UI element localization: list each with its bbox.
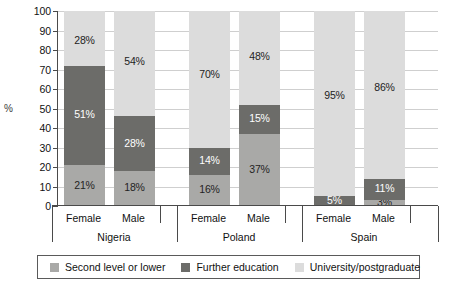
bar-value-label: 16% (189, 183, 230, 195)
y-axis-tick (53, 89, 58, 90)
x-axis-category-separator (410, 206, 411, 223)
x-axis-group-separator (438, 206, 439, 242)
bar-column: 18%28%54% (114, 11, 155, 206)
bar-value-label: 51% (64, 108, 105, 120)
bar-segment-further: 51% (64, 66, 105, 165)
y-axis-title: % (4, 103, 13, 114)
y-axis-tick (53, 31, 58, 32)
bar-segment-univ: 95% (314, 11, 355, 196)
bar-segment-univ: 86% (364, 11, 405, 179)
bar-segment-further: 11% (364, 179, 405, 200)
bar-value-label: 70% (189, 68, 230, 80)
y-axis-label: 40 (23, 122, 51, 134)
bar-column: 3%11%86% (364, 11, 405, 206)
legend-label: Further education (196, 261, 278, 273)
legend-swatch-second-level-icon (50, 263, 59, 272)
y-axis-label: 80 (23, 44, 51, 56)
x-axis-line (52, 205, 438, 206)
x-axis-category-label: Male (238, 212, 279, 224)
bar-value-label: 86% (364, 81, 405, 93)
x-axis-category-label: Female (313, 212, 354, 224)
y-axis-label: 100 (23, 5, 51, 17)
bar-segment-second: 21% (64, 165, 105, 206)
legend-item: University/postgraduate (295, 261, 420, 273)
x-axis-category-separator (160, 206, 161, 223)
bar-segment-further: 28% (114, 116, 155, 171)
x-axis-group-separator (52, 206, 53, 242)
y-axis-tick (53, 109, 58, 110)
y-axis-label: 90 (23, 25, 51, 37)
bar-segment-univ: 54% (114, 11, 155, 116)
plot-area: 21%51%28%18%28%54%16%14%70%37%15%48%5%95… (57, 11, 438, 206)
bar-segment-further: 14% (189, 148, 230, 175)
x-axis-category-separator (285, 206, 286, 223)
bar-value-label: 28% (114, 137, 155, 149)
bar-value-label: 21% (64, 179, 105, 191)
bar-value-label: 14% (189, 154, 230, 166)
bar-value-label: 37% (239, 163, 280, 175)
y-axis-tick (53, 11, 58, 12)
legend-swatch-university-icon (295, 263, 304, 272)
y-axis-tick (53, 128, 58, 129)
bar-segment-univ: 28% (64, 11, 105, 66)
y-axis-label: 20 (23, 161, 51, 173)
legend-label: University/postgraduate (310, 261, 420, 273)
legend-swatch-further-education-icon (181, 263, 190, 272)
y-axis-label: 0 (23, 200, 51, 212)
y-axis-tick (53, 167, 58, 168)
bar-value-label: 95% (314, 89, 355, 101)
x-axis-category-label: Male (113, 212, 154, 224)
y-axis-tick (53, 206, 58, 207)
y-axis-tick (53, 70, 58, 71)
chart-legend: Second level or lower Further education … (37, 255, 420, 279)
bar-column: 21%51%28% (64, 11, 105, 206)
bar-segment-univ: 70% (189, 11, 230, 148)
legend-item: Further education (181, 261, 278, 273)
bar-value-label: 54% (114, 55, 155, 67)
x-axis-group-label: Nigeria (64, 231, 164, 243)
bar-segment-second: 37% (239, 134, 280, 206)
bar-value-label: 28% (64, 34, 105, 46)
y-axis-label: 60 (23, 83, 51, 95)
legend-label: Second level or lower (65, 261, 165, 273)
bar-segment-univ: 48% (239, 11, 280, 105)
x-axis-group-separator (302, 206, 303, 242)
bar-segment-second: 18% (114, 171, 155, 206)
x-axis-group-separator (177, 206, 178, 242)
plot-inner: 21%51%28%18%28%54%16%14%70%37%15%48%5%95… (58, 11, 438, 206)
bar-column: 5%95% (314, 11, 355, 206)
bar-value-label: 15% (239, 112, 280, 124)
y-axis-tick (53, 187, 58, 188)
x-axis-category-label: Female (188, 212, 229, 224)
bar-value-label: 11% (364, 182, 405, 194)
bar-column: 37%15%48% (239, 11, 280, 206)
stacked-bar-chart: % 21%51%28%18%28%54%16%14%70%37%15%48%5%… (0, 0, 454, 289)
x-axis-category-label: Female (63, 212, 104, 224)
bar-value-label: 18% (114, 181, 155, 193)
bar-column: 16%14%70% (189, 11, 230, 206)
y-axis-tick (53, 148, 58, 149)
x-axis-group-label: Spain (314, 231, 414, 243)
y-axis-label: 10 (23, 181, 51, 193)
bar-value-label: 48% (239, 50, 280, 62)
legend-item: Second level or lower (50, 261, 165, 273)
y-axis-label: 50 (23, 103, 51, 115)
x-axis-category-label: Male (363, 212, 404, 224)
y-axis-tick (53, 50, 58, 51)
bar-segment-further: 15% (239, 105, 280, 134)
y-axis-label: 70 (23, 64, 51, 76)
bar-segment-second: 16% (189, 175, 230, 206)
x-axis-group-label: Poland (189, 231, 289, 243)
y-axis-label: 30 (23, 142, 51, 154)
